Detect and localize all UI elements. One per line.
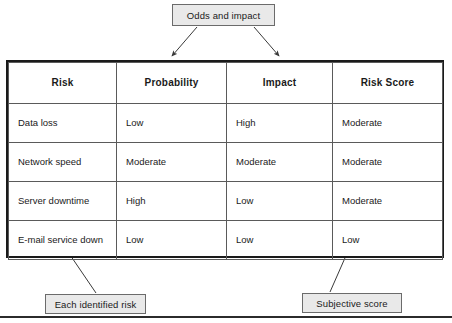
cell-risk-score: Moderate	[333, 104, 443, 143]
cell-risk: E-mail service down	[9, 221, 117, 260]
callout-subjective-score-label: Subjective score	[316, 298, 387, 309]
diagram-page: Odds and impact Risk Probability Impact …	[0, 0, 452, 323]
column-header-risk[interactable]: Risk	[9, 63, 117, 104]
callout-each-identified-risk[interactable]: Each identified risk	[45, 294, 146, 314]
table-row: Network speed Moderate Moderate Moderate	[9, 143, 443, 182]
column-header-impact[interactable]: Impact	[227, 63, 333, 104]
table-row: Server downtime High Low Moderate	[9, 182, 443, 221]
risk-table: Risk Probability Impact Risk Score Data …	[8, 62, 443, 260]
cell-probability: High	[117, 182, 227, 221]
callout-odds-and-impact[interactable]: Odds and impact	[172, 4, 275, 26]
column-header-risk-score[interactable]: Risk Score	[333, 63, 443, 104]
cell-risk-score: Low	[333, 221, 443, 260]
risk-table-container: Risk Probability Impact Risk Score Data …	[6, 60, 444, 258]
cell-probability: Low	[117, 104, 227, 143]
callout-odds-and-impact-label: Odds and impact	[187, 10, 260, 21]
cell-impact: Low	[227, 221, 333, 260]
callout-subjective-score[interactable]: Subjective score	[302, 293, 402, 313]
arrow-odds-to-probability	[172, 27, 197, 56]
table-header-row: Risk Probability Impact Risk Score	[9, 63, 443, 104]
cell-risk-score: Moderate	[333, 182, 443, 221]
cell-probability: Moderate	[117, 143, 227, 182]
cell-risk-score: Moderate	[333, 143, 443, 182]
cell-impact: Low	[227, 182, 333, 221]
cell-impact: Moderate	[227, 143, 333, 182]
callout-each-identified-risk-label: Each identified risk	[55, 299, 137, 310]
column-header-probability[interactable]: Probability	[117, 63, 227, 104]
page-bottom-rule	[0, 316, 452, 318]
cell-risk: Network speed	[9, 143, 117, 182]
cell-risk: Data loss	[9, 104, 117, 143]
cell-impact: High	[227, 104, 333, 143]
table-row: Data loss Low High Moderate	[9, 104, 443, 143]
arrow-odds-to-impact	[254, 27, 279, 56]
table-row: E-mail service down Low Low Low	[9, 221, 443, 260]
cell-risk: Server downtime	[9, 182, 117, 221]
cell-probability: Low	[117, 221, 227, 260]
